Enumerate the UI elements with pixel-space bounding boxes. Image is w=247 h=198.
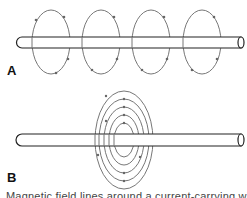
panel-a-label: A [7, 63, 16, 78]
panel-b-wire [16, 134, 244, 146]
diagram-canvas [0, 0, 247, 198]
panel-a-wire [17, 37, 245, 48]
figure-caption: Magnetic field lines around a current-ca… [6, 190, 247, 198]
panel-b-label: B [7, 170, 16, 185]
